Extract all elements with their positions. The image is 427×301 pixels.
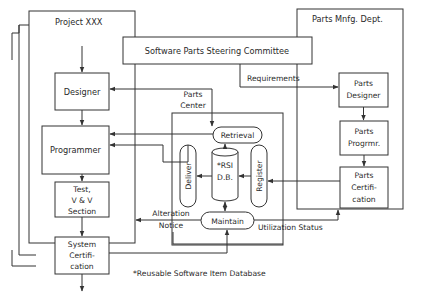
parts-mfg-dept-title: Parts Mnfg. Dept. [312, 14, 383, 24]
svg-text:Certifi-: Certifi- [69, 251, 95, 260]
parts-center-diagram: Project XXX Parts Mnfg. Dept. Software P… [0, 0, 427, 301]
parts-certification-node: Parts Certifi- cation [340, 167, 388, 208]
programmer-node: Programmer [42, 126, 109, 174]
rsi-database: *RSI D.B. [212, 148, 238, 201]
svg-text:Parts: Parts [355, 127, 374, 136]
svg-text:Notice: Notice [159, 221, 184, 230]
parts-programmer-node: Parts Progrmr. [340, 121, 388, 155]
svg-text:*RSI: *RSI [217, 161, 233, 170]
maintain-process: Maintain [201, 212, 254, 229]
svg-text:Programmer: Programmer [50, 145, 102, 155]
requirements-label: Requirements [247, 74, 300, 83]
svg-text:Designer: Designer [64, 87, 101, 97]
svg-text:Parts: Parts [354, 79, 373, 88]
svg-text:D.B.: D.B. [217, 173, 233, 182]
test-vv-section-node: Test, V & V Section [55, 182, 109, 217]
svg-text:Section: Section [68, 207, 96, 216]
svg-text:System: System [68, 240, 96, 249]
system-certification-node: System Certifi- cation [55, 237, 109, 274]
svg-text:V & V: V & V [71, 196, 93, 205]
designer-node: Designer [55, 73, 109, 110]
svg-text:Maintain: Maintain [211, 217, 244, 226]
retrieval-process: Retrieval [213, 127, 262, 143]
svg-text:Parts: Parts [355, 171, 374, 180]
svg-text:cation: cation [352, 195, 376, 204]
svg-text:Designer: Designer [346, 91, 381, 100]
alteration-notice-label: Alteration [152, 209, 189, 218]
svg-text:Progrmr.: Progrmr. [348, 139, 380, 148]
footnote: *Reusable Software Item Database [133, 269, 266, 278]
svg-text:Register: Register [255, 159, 264, 191]
svg-text:Test,: Test, [72, 185, 90, 194]
svg-text:cation: cation [70, 262, 94, 271]
svg-text:Parts: Parts [184, 90, 203, 99]
svg-text:Deliver: Deliver [184, 162, 193, 190]
project-title: Project XXX [55, 17, 103, 27]
utilization-status-label: Utilization Status [258, 223, 323, 232]
steering-committee-label: Software Parts Steering Committee [145, 46, 289, 56]
register-process: Register [251, 145, 267, 207]
svg-text:Center: Center [180, 101, 206, 110]
parts-designer-node: Parts Designer [339, 73, 388, 107]
stacked-project-frames [12, 25, 36, 266]
steering-committee-box: Software Parts Steering Committee [123, 37, 312, 64]
svg-text:Retrieval: Retrieval [221, 131, 255, 140]
svg-text:Certifi-: Certifi- [351, 183, 377, 192]
